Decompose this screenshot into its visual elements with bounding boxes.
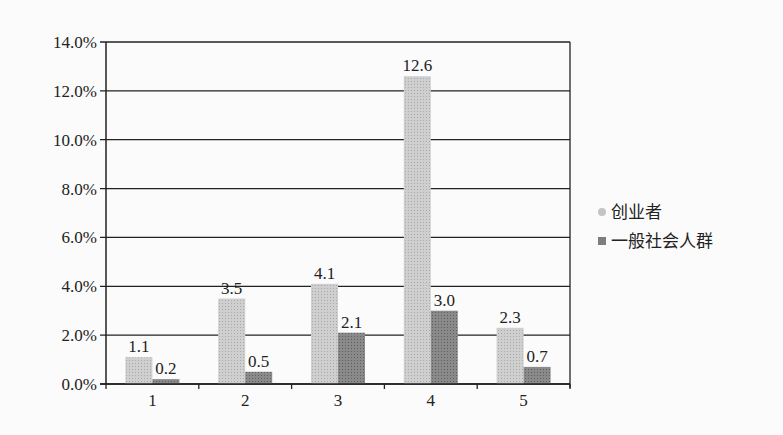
y-tick-label: 2.0% [62,326,97,345]
legend-label: 创业者 [611,198,662,223]
data-label: 0.2 [155,359,176,378]
data-label: 1.1 [128,337,149,356]
legend-item-entrepreneurs: 创业者 [598,196,713,225]
data-label: 2.1 [341,313,362,332]
legend-swatch-dark-icon [598,237,606,245]
bar [245,372,272,384]
y-tick-label: 4.0% [62,277,97,296]
data-labels: 1.10.23.50.54.12.112.63.02.30.7 [128,56,548,378]
x-tick-label: 1 [148,391,157,410]
legend-swatch-light-icon [598,208,606,216]
legend-item-general-population: 一般社会人群 [598,225,713,254]
bar [524,367,551,384]
data-label: 4.1 [314,264,335,283]
bar [431,311,458,384]
data-label: 3.5 [221,279,242,298]
y-tick-label: 10.0% [53,131,97,150]
data-label: 0.5 [248,352,269,371]
y-tick-label: 12.0% [53,82,97,101]
x-tick-label: 2 [241,391,250,410]
data-label: 2.3 [499,308,520,327]
y-tick-label: 6.0% [62,228,97,247]
bar [311,284,338,384]
bar [497,328,524,384]
bar [125,357,152,384]
data-label: 0.7 [526,347,548,366]
x-axis: 12345 [100,384,570,410]
x-tick-label: 4 [427,391,436,410]
y-axis-tick-labels: 0.0%2.0%4.0%6.0%8.0%10.0%12.0%14.0% [53,33,97,394]
bar [338,333,365,384]
data-label: 12.6 [402,56,432,75]
x-tick-label: 3 [334,391,343,410]
bars [125,76,550,384]
y-tick-label: 0.0% [62,375,97,394]
data-label: 3.0 [434,291,455,310]
y-tick-label: 8.0% [62,180,97,199]
bar [218,299,245,385]
y-tick-label: 14.0% [53,33,97,52]
bar [404,76,431,384]
legend: 创业者 一般社会人群 [598,196,713,254]
legend-label: 一般社会人群 [611,227,713,252]
x-tick-label: 5 [519,391,528,410]
